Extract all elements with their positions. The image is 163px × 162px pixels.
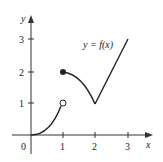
- x-tick-1: 1: [60, 141, 65, 152]
- x-axis-label: x: [145, 139, 151, 150]
- open-circle-marker: [60, 100, 66, 106]
- curve-segment-2: [63, 72, 95, 104]
- y-tick-1: 1: [19, 98, 24, 109]
- y-tick-2: 2: [19, 67, 24, 78]
- graph: 1 2 3 1 2 3 0 x y y = f(x): [0, 0, 163, 162]
- origin-label: 0: [21, 141, 26, 152]
- x-tick-3: 3: [125, 141, 130, 152]
- x-tick-2: 2: [92, 141, 97, 152]
- curve-segment-1: [31, 106, 61, 135]
- y-tick-3: 3: [19, 34, 24, 45]
- x-axis-arrow-icon: [145, 132, 153, 138]
- filled-dot-marker: [60, 69, 66, 75]
- curve-label: y = f(x): [82, 39, 114, 51]
- y-axis-arrow-icon: [28, 15, 34, 23]
- y-axis-label: y: [20, 13, 26, 24]
